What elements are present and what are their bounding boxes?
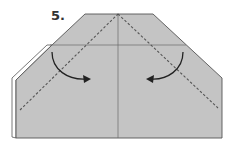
step-number: 5. [51, 9, 65, 23]
origami-diagram [0, 0, 232, 146]
paper-front-face [16, 14, 222, 138]
